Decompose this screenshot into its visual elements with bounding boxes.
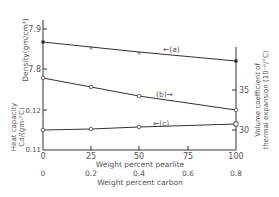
density-axis-label: Density(gm/cm³) xyxy=(21,18,30,81)
x2tick-0.4: 0.4 xyxy=(133,169,145,178)
tick-7.8: 7.8 xyxy=(28,65,41,74)
tick-0.12: 0.12 xyxy=(25,107,41,115)
series-b-marker xyxy=(89,85,93,89)
tick-35: 35 xyxy=(239,86,249,95)
x2tick-0.8: 0.8 xyxy=(230,169,242,178)
x2tick-0.2: 0.2 xyxy=(85,169,97,178)
xtick-25: 25 xyxy=(86,152,96,161)
series-c-marker xyxy=(234,122,238,126)
x2tick-0.6: 0.6 xyxy=(182,169,194,178)
x2tick-0: 0 xyxy=(41,169,46,178)
chart: 7.9 7.8 0.12 0.11 35 30 0 25 50 75 100 W… xyxy=(0,0,279,197)
right-axis-label-2: thermal expansion (10⁻⁶/°C) xyxy=(262,50,270,149)
xtick-0: 0 xyxy=(40,152,45,161)
x2label: Weight percent carbon xyxy=(97,178,183,187)
series-a-marker xyxy=(235,60,238,63)
heat-capacity-axis-label: Heat capacity xyxy=(10,103,18,151)
series-a-label: ←(a) xyxy=(163,45,180,54)
series-c-marker xyxy=(41,128,45,132)
series-c-marker xyxy=(137,125,141,129)
heat-capacity-axis-label-2: Cd/(gm-°C) xyxy=(18,107,26,147)
series-a-marker xyxy=(42,41,45,44)
series-b-marker xyxy=(234,108,238,112)
xlabel: Weight percent pearlite xyxy=(96,160,185,169)
series-b-label: (b)→ xyxy=(156,90,173,99)
right-axis-label: Volume coefficient of xyxy=(254,63,262,137)
xtick-100: 100 xyxy=(228,152,243,161)
xtick-75: 75 xyxy=(183,152,193,161)
series-c-label: ←(c) xyxy=(153,119,169,128)
tick-7.9: 7.9 xyxy=(28,25,41,34)
series-a-marker: × xyxy=(88,44,93,51)
series-b-marker xyxy=(137,94,141,98)
tick-30: 30 xyxy=(239,126,249,135)
series-b-marker xyxy=(41,76,45,80)
series-c-marker xyxy=(89,127,93,131)
series-a-marker: × xyxy=(136,49,141,56)
tick-0.11: 0.11 xyxy=(25,146,41,154)
